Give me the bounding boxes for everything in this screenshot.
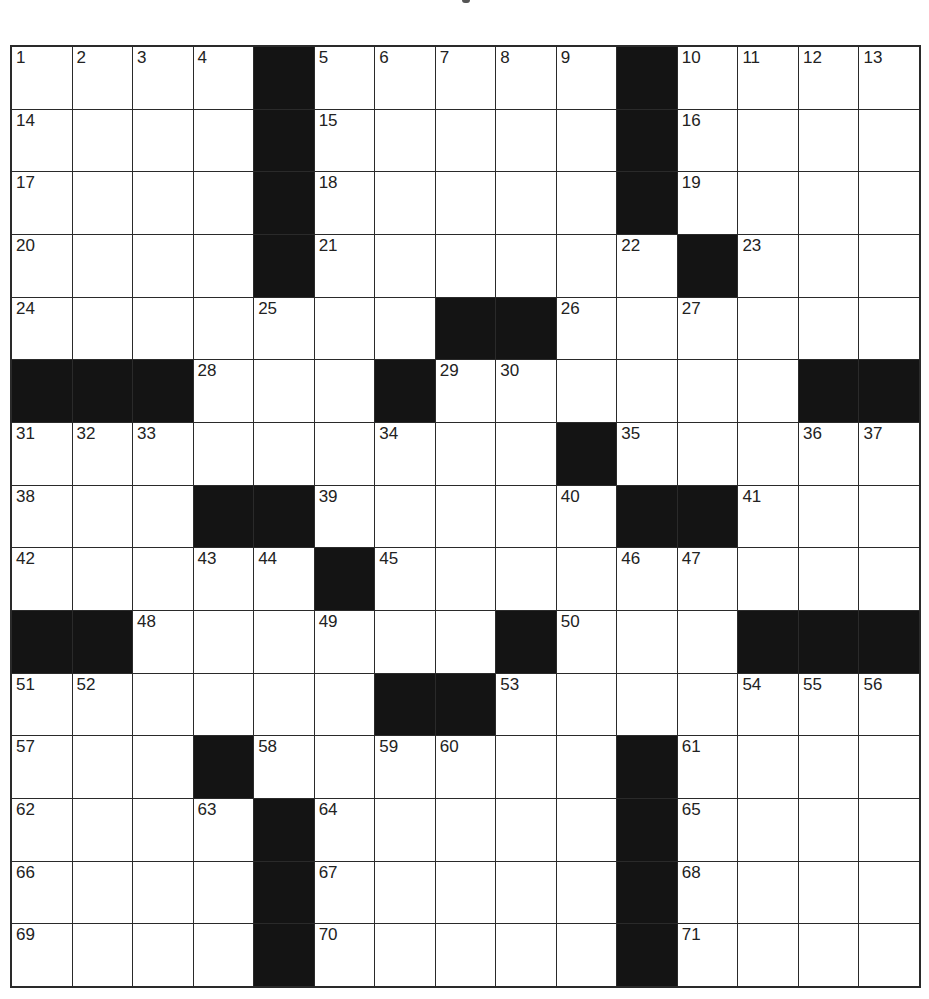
grid-cell[interactable]	[254, 423, 314, 485]
grid-cell[interactable]	[678, 360, 738, 422]
grid-cell[interactable]	[859, 862, 919, 924]
grid-cell[interactable]	[73, 736, 133, 798]
grid-cell[interactable]	[315, 423, 375, 485]
grid-cell[interactable]: 44	[254, 548, 314, 610]
grid-cell[interactable]: 31	[12, 423, 72, 485]
grid-cell[interactable]	[738, 736, 798, 798]
grid-cell[interactable]	[436, 110, 496, 172]
grid-cell[interactable]	[375, 235, 435, 297]
grid-cell[interactable]	[496, 235, 556, 297]
grid-cell[interactable]	[496, 110, 556, 172]
grid-cell[interactable]: 47	[678, 548, 738, 610]
grid-cell[interactable]	[436, 799, 496, 861]
grid-cell[interactable]	[799, 924, 859, 986]
grid-cell[interactable]	[375, 172, 435, 234]
grid-cell[interactable]	[496, 548, 556, 610]
grid-cell[interactable]	[73, 548, 133, 610]
grid-cell[interactable]: 20	[12, 235, 72, 297]
grid-cell[interactable]: 9	[557, 47, 617, 109]
grid-cell[interactable]	[799, 799, 859, 861]
grid-cell[interactable]	[73, 110, 133, 172]
grid-cell[interactable]: 27	[678, 298, 738, 360]
grid-cell[interactable]	[133, 235, 193, 297]
grid-cell[interactable]	[375, 298, 435, 360]
grid-cell[interactable]: 61	[678, 736, 738, 798]
grid-cell[interactable]: 16	[678, 110, 738, 172]
grid-cell[interactable]	[557, 924, 617, 986]
grid-cell[interactable]: 26	[557, 298, 617, 360]
grid-cell[interactable]: 34	[375, 423, 435, 485]
grid-cell[interactable]: 50	[557, 611, 617, 673]
grid-cell[interactable]	[194, 423, 254, 485]
grid-cell[interactable]	[73, 799, 133, 861]
grid-cell[interactable]	[617, 298, 677, 360]
grid-cell[interactable]: 41	[738, 486, 798, 548]
grid-cell[interactable]: 51	[12, 674, 72, 736]
grid-cell[interactable]	[133, 674, 193, 736]
grid-cell[interactable]	[315, 298, 375, 360]
grid-cell[interactable]	[133, 486, 193, 548]
grid-cell[interactable]: 49	[315, 611, 375, 673]
grid-cell[interactable]	[799, 235, 859, 297]
grid-cell[interactable]	[133, 548, 193, 610]
grid-cell[interactable]	[738, 548, 798, 610]
grid-cell[interactable]: 22	[617, 235, 677, 297]
grid-cell[interactable]: 25	[254, 298, 314, 360]
grid-cell[interactable]	[799, 172, 859, 234]
grid-cell[interactable]	[315, 360, 375, 422]
grid-cell[interactable]	[859, 486, 919, 548]
grid-cell[interactable]	[73, 298, 133, 360]
grid-cell[interactable]	[496, 423, 556, 485]
grid-cell[interactable]: 11	[738, 47, 798, 109]
grid-cell[interactable]	[496, 486, 556, 548]
grid-cell[interactable]: 3	[133, 47, 193, 109]
grid-cell[interactable]	[678, 611, 738, 673]
grid-cell[interactable]: 4	[194, 47, 254, 109]
grid-cell[interactable]: 68	[678, 862, 738, 924]
grid-cell[interactable]	[436, 235, 496, 297]
grid-cell[interactable]: 35	[617, 423, 677, 485]
grid-cell[interactable]	[738, 423, 798, 485]
grid-cell[interactable]	[254, 360, 314, 422]
grid-cell[interactable]	[738, 924, 798, 986]
grid-cell[interactable]	[738, 110, 798, 172]
grid-cell[interactable]: 7	[436, 47, 496, 109]
grid-cell[interactable]: 64	[315, 799, 375, 861]
grid-cell[interactable]	[738, 799, 798, 861]
grid-cell[interactable]: 13	[859, 47, 919, 109]
grid-cell[interactable]: 6	[375, 47, 435, 109]
grid-cell[interactable]	[859, 924, 919, 986]
grid-cell[interactable]: 28	[194, 360, 254, 422]
grid-cell[interactable]: 24	[12, 298, 72, 360]
grid-cell[interactable]: 56	[859, 674, 919, 736]
grid-cell[interactable]	[133, 172, 193, 234]
grid-cell[interactable]	[557, 548, 617, 610]
grid-cell[interactable]: 52	[73, 674, 133, 736]
grid-cell[interactable]: 18	[315, 172, 375, 234]
grid-cell[interactable]	[73, 172, 133, 234]
grid-cell[interactable]: 32	[73, 423, 133, 485]
grid-cell[interactable]: 29	[436, 360, 496, 422]
grid-cell[interactable]	[73, 924, 133, 986]
grid-cell[interactable]: 67	[315, 862, 375, 924]
grid-cell[interactable]: 12	[799, 47, 859, 109]
grid-cell[interactable]	[617, 674, 677, 736]
grid-cell[interactable]	[375, 486, 435, 548]
grid-cell[interactable]	[678, 423, 738, 485]
grid-cell[interactable]	[557, 674, 617, 736]
grid-cell[interactable]: 55	[799, 674, 859, 736]
grid-cell[interactable]: 38	[12, 486, 72, 548]
grid-cell[interactable]	[375, 611, 435, 673]
grid-cell[interactable]: 37	[859, 423, 919, 485]
grid-cell[interactable]	[315, 674, 375, 736]
grid-cell[interactable]	[194, 924, 254, 986]
grid-cell[interactable]	[315, 736, 375, 798]
grid-cell[interactable]	[859, 548, 919, 610]
grid-cell[interactable]: 66	[12, 862, 72, 924]
grid-cell[interactable]	[799, 486, 859, 548]
grid-cell[interactable]: 10	[678, 47, 738, 109]
grid-cell[interactable]: 54	[738, 674, 798, 736]
grid-cell[interactable]: 23	[738, 235, 798, 297]
grid-cell[interactable]: 63	[194, 799, 254, 861]
grid-cell[interactable]	[557, 235, 617, 297]
